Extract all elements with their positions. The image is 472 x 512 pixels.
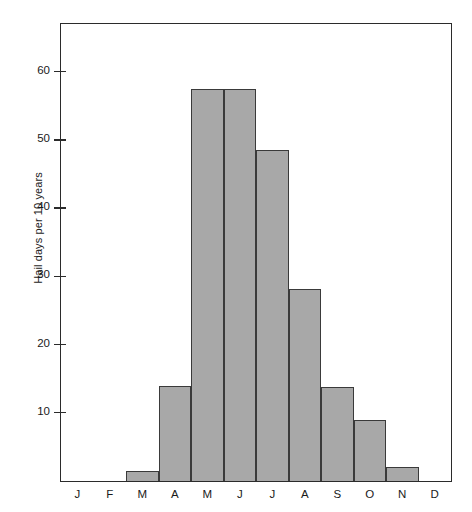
y-tick-label: 20 (10, 337, 50, 349)
y-tick-label: 30 (10, 268, 50, 280)
x-tick-label: J (224, 488, 256, 500)
x-tick-label: J (256, 488, 288, 500)
x-tick-label: J (61, 488, 93, 500)
bar (224, 89, 257, 481)
x-tick-label: M (191, 488, 223, 500)
y-tick-label: 40 (10, 200, 50, 212)
x-tick-label: D (419, 488, 451, 500)
x-tick-label: N (386, 488, 418, 500)
bar (191, 89, 224, 481)
bar-series (61, 24, 451, 481)
y-tick-label: 10 (10, 405, 50, 417)
y-tick-label: 50 (10, 132, 50, 144)
bar (354, 420, 387, 481)
x-tick-label: O (354, 488, 386, 500)
bar (321, 387, 354, 481)
bar (386, 467, 419, 481)
bar (289, 289, 322, 481)
x-tick-label: A (289, 488, 321, 500)
bar (159, 386, 192, 481)
hail-days-bar-chart: Hail days per 10 years 102030405060 JFMA… (0, 0, 472, 512)
x-tick-label: S (321, 488, 353, 500)
y-tick-label: 60 (10, 64, 50, 76)
bar (256, 150, 289, 481)
y-axis-title: Hail days per 10 years (32, 108, 44, 348)
bar (126, 471, 159, 481)
x-tick-label: M (126, 488, 158, 500)
x-tick-label: F (94, 488, 126, 500)
x-tick-label: A (159, 488, 191, 500)
